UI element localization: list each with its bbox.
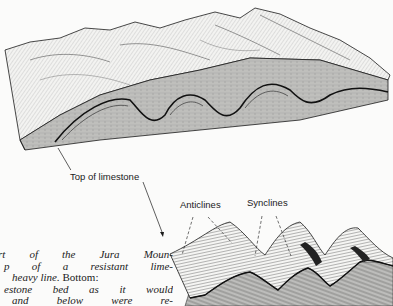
figure-caption: rt of the Jura Moun- p of a resistant li…	[0, 249, 173, 306]
caption-line-4: estone bed as it would	[0, 284, 173, 296]
textbook-page: Top of limestone	[0, 0, 393, 306]
caption-line-3-italic: heavy line.	[12, 272, 60, 283]
synclines-label: Synclines	[247, 197, 288, 208]
anticlines-label: Anticlines	[180, 199, 221, 210]
caption-line-3: heavy line. Bottom:	[0, 272, 173, 284]
caption-line-5: and below were re-	[0, 295, 173, 306]
caption-line-1: rt of the Jura Moun-	[0, 249, 173, 261]
caption-line-2: p of a resistant lime-	[0, 261, 173, 273]
caption-line-3-roman: Bottom:	[62, 272, 98, 283]
